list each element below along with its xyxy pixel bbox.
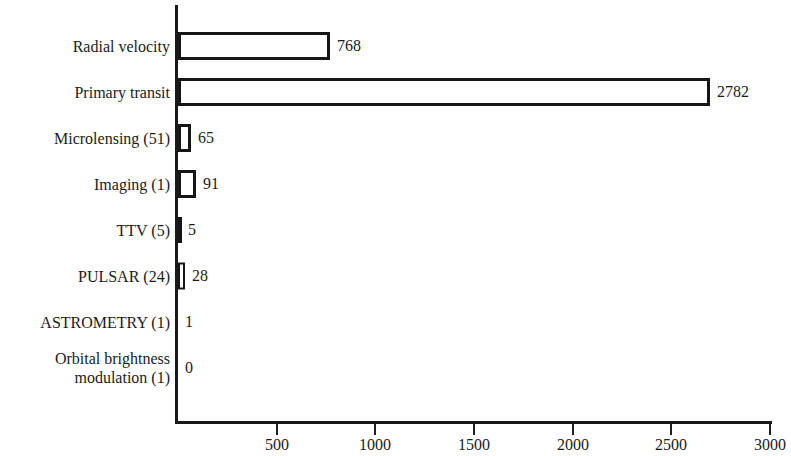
bar xyxy=(178,170,196,198)
x-axis-tick xyxy=(572,424,574,435)
x-axis-tick-label: 2000 xyxy=(557,436,589,454)
x-axis-tick xyxy=(473,424,475,435)
x-axis-tick-label: 2500 xyxy=(655,436,687,454)
category-label: Orbital brightness modulation (1) xyxy=(0,349,170,387)
category-label: TTV (5) xyxy=(0,221,170,240)
category-label: PULSAR (24) xyxy=(0,267,170,286)
bar-row: Imaging (1) 91 xyxy=(178,161,772,207)
x-axis-tick xyxy=(374,424,376,435)
value-label: 65 xyxy=(191,129,214,147)
bar-row: Orbital brightness modulation (1) 0 xyxy=(178,345,772,391)
bar xyxy=(178,32,330,60)
x-axis-tick xyxy=(276,424,278,435)
value-label: 28 xyxy=(185,267,208,285)
value-label: 2782 xyxy=(710,83,749,101)
value-label: 1 xyxy=(178,313,193,331)
category-label: Primary transit xyxy=(0,83,170,102)
x-axis-tick-label: 3000 xyxy=(754,436,786,454)
value-label: 5 xyxy=(181,221,196,239)
x-axis-tick xyxy=(769,424,771,435)
bar-row: TTV (5) 5 xyxy=(178,207,772,253)
category-label: Microlensing (51) xyxy=(0,129,170,148)
bar-row: ASTROMETRY (1) 1 xyxy=(178,299,772,345)
x-axis-tick-label: 500 xyxy=(265,436,289,454)
category-label: Radial velocity xyxy=(0,37,170,56)
value-label: 768 xyxy=(330,37,361,55)
x-axis-tick-label: 1000 xyxy=(359,436,391,454)
bar-row: Radial velocity 768 xyxy=(178,23,772,69)
x-axis-tick-label: 1500 xyxy=(458,436,490,454)
bar xyxy=(178,263,185,290)
bar-row: PULSAR (24) 28 xyxy=(178,253,772,299)
bar-row: Primary transit 2782 xyxy=(178,69,772,115)
bar xyxy=(178,124,191,152)
value-label: 91 xyxy=(196,175,219,193)
plot-area: Radial velocity 768 Primary transit 2782… xyxy=(178,5,772,421)
x-axis-tick xyxy=(670,424,672,435)
bar xyxy=(178,78,710,106)
bar-chart: Radial velocity 768 Primary transit 2782… xyxy=(0,0,791,456)
category-label: ASTROMETRY (1) xyxy=(0,313,170,332)
value-label: 0 xyxy=(178,359,193,377)
category-label: Imaging (1) xyxy=(0,175,170,194)
bar-row: Microlensing (51) 65 xyxy=(178,115,772,161)
